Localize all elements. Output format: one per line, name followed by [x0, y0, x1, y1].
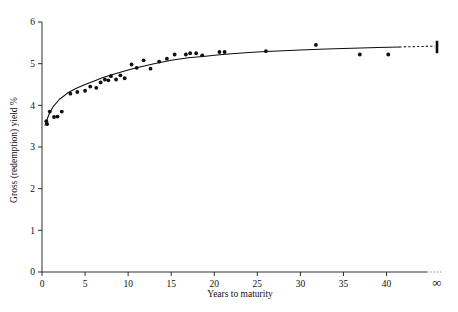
y-axis-label: Gross (redemption) yield %	[9, 97, 20, 203]
data-point	[48, 110, 52, 114]
data-point	[188, 51, 192, 55]
data-point	[56, 115, 60, 119]
data-point	[200, 53, 204, 57]
y-tick-label: 6	[30, 17, 35, 27]
data-point	[118, 73, 122, 77]
y-tick-label: 4	[30, 101, 35, 111]
axes-group	[42, 22, 443, 272]
data-point	[218, 50, 222, 54]
data-point	[69, 92, 73, 96]
data-point	[114, 78, 118, 82]
data-point	[264, 49, 268, 53]
y-tick-label: 5	[30, 59, 35, 69]
yield-curve-figure: 0123456 0510152025303540∞ Years to matur…	[0, 0, 458, 312]
y-tick-label: 3	[30, 142, 35, 152]
x-tick-label: 20	[210, 279, 220, 289]
data-point	[173, 53, 177, 57]
fitted-yield-curve	[45, 47, 399, 125]
data-point	[135, 66, 139, 70]
x-tick-label: 35	[339, 279, 349, 289]
data-point	[94, 86, 98, 90]
data-point	[314, 43, 318, 47]
data-point	[106, 78, 110, 82]
fit-curve-group	[45, 41, 437, 126]
data-point	[184, 53, 188, 57]
data-point	[75, 90, 79, 94]
x-tick-label: 0	[40, 279, 45, 289]
data-point	[88, 85, 92, 89]
data-point	[165, 57, 169, 61]
data-point	[103, 78, 107, 82]
data-point	[52, 115, 56, 119]
x-tick-label: 40	[382, 279, 392, 289]
data-point	[45, 122, 49, 126]
data-point	[358, 53, 362, 57]
data-point	[194, 51, 198, 55]
fitted-curve-dashed-extension	[399, 46, 435, 47]
data-point	[123, 76, 127, 80]
axis-labels-group: Years to maturity Gross (redemption) yie…	[9, 97, 273, 299]
x-axis-infinity-label: ∞	[432, 275, 441, 290]
y-tick-group: 0123456	[30, 17, 42, 277]
data-point	[386, 53, 390, 57]
data-point	[99, 81, 103, 85]
data-point	[223, 50, 227, 54]
data-point	[130, 63, 134, 67]
x-tick-label: 25	[253, 279, 263, 289]
data-point	[142, 58, 146, 62]
x-tick-label: 30	[296, 279, 306, 289]
x-axis-label: Years to maturity	[207, 289, 273, 299]
data-point	[109, 74, 113, 78]
data-point	[60, 110, 64, 114]
x-tick-group: 0510152025303540∞	[40, 272, 442, 290]
data-point	[149, 67, 153, 71]
x-tick-label: 5	[83, 279, 88, 289]
x-tick-label: 15	[166, 279, 176, 289]
x-tick-label: 10	[123, 279, 133, 289]
y-tick-label: 0	[30, 267, 35, 277]
y-tick-label: 1	[30, 226, 35, 236]
data-point	[83, 89, 87, 93]
y-tick-label: 2	[30, 184, 35, 194]
chart-canvas: 0123456 0510152025303540∞ Years to matur…	[0, 0, 458, 312]
data-point	[157, 60, 161, 64]
